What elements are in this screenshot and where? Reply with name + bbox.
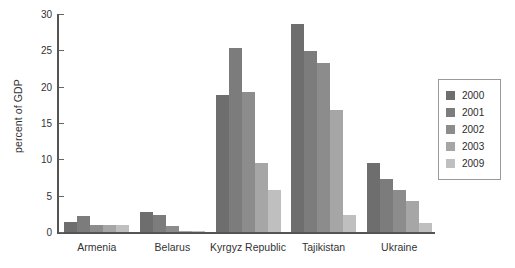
legend-item-2000: 2000: [446, 87, 494, 104]
x-axis-category-label: Armenia: [77, 241, 116, 253]
bar: [64, 222, 77, 232]
bar: [153, 215, 166, 232]
legend-swatch-icon: [446, 108, 455, 117]
bar-group-belarus: Belarus: [140, 14, 205, 232]
bar: [216, 95, 229, 232]
bar: [103, 225, 116, 232]
bar-group-tajikistan: Tajikistan: [291, 14, 356, 232]
legend-swatch-icon: [446, 159, 455, 168]
y-axis-tick-label: 25: [41, 45, 52, 56]
legend-label: 2000: [462, 91, 484, 101]
bar: [367, 163, 380, 232]
legend-item-2002: 2002: [446, 121, 494, 138]
bar: [380, 179, 393, 232]
bar: [291, 24, 304, 232]
legend-label: 2001: [462, 108, 484, 118]
x-axis-line: [57, 232, 435, 234]
bar: [90, 225, 103, 232]
bar-chart: percent of GDP 051015202530 ArmeniaBelar…: [0, 0, 515, 268]
bar: [268, 190, 281, 232]
legend-label: 2009: [462, 159, 484, 169]
bar: [242, 92, 255, 232]
x-axis-category-label: Tajikistan: [302, 241, 345, 253]
y-axis-tick-label: 5: [46, 190, 52, 201]
bar-group-kyrgyz-republic: Kyrgyz Republic: [216, 14, 281, 232]
bars-layer: ArmeniaBelarusKyrgyz RepublicTajikistanU…: [59, 14, 435, 232]
bar: [393, 190, 406, 232]
legend-label: 2002: [462, 125, 484, 135]
y-axis-tick-label: 20: [41, 81, 52, 92]
legend: 20002001200220032009: [438, 79, 501, 180]
y-axis-tick-label: 0: [46, 227, 52, 238]
y-axis-title-text: percent of GDP: [12, 79, 24, 153]
legend-swatch-icon: [446, 125, 455, 134]
x-axis-category-label: Ukraine: [381, 241, 417, 253]
legend-item-2001: 2001: [446, 104, 494, 121]
x-axis-category-label: Kyrgyz Republic: [210, 241, 286, 253]
legend-label: 2003: [462, 142, 484, 152]
bar: [330, 110, 343, 232]
x-axis-category-label: Belarus: [155, 241, 191, 253]
legend-item-2003: 2003: [446, 138, 494, 155]
bar: [317, 63, 330, 232]
bar: [255, 163, 268, 232]
bar: [166, 226, 179, 232]
legend-swatch-icon: [446, 91, 455, 100]
y-axis-tick-label: 30: [41, 9, 52, 20]
y-axis-tick-mark: [59, 232, 64, 233]
bar: [406, 201, 419, 232]
bar: [140, 212, 153, 232]
bar: [192, 231, 205, 232]
plot-area: 051015202530 ArmeniaBelarusKyrgyz Republ…: [57, 14, 435, 232]
bar-group-ukraine: Ukraine: [367, 14, 432, 232]
legend-swatch-icon: [446, 142, 455, 151]
y-axis-title: percent of GDP: [6, 0, 30, 232]
bar: [229, 48, 242, 232]
bar: [179, 231, 192, 232]
y-axis-tick-label: 15: [41, 118, 52, 129]
bar: [116, 225, 129, 232]
bar: [304, 51, 317, 232]
bar: [343, 215, 356, 232]
bar: [77, 216, 90, 232]
bar-group-armenia: Armenia: [64, 14, 129, 232]
y-axis-tick-label: 10: [41, 154, 52, 165]
bar: [419, 223, 432, 232]
legend-item-2009: 2009: [446, 155, 494, 172]
